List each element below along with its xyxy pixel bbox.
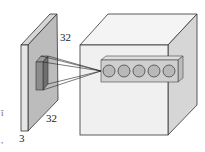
- cnn-diagram: [0, 0, 205, 152]
- neuron-box-side: [178, 56, 183, 82]
- input-front-face: [21, 45, 28, 131]
- neuron-icon: [133, 65, 145, 77]
- neuron-box-top: [101, 56, 183, 60]
- input-width-label: 32: [60, 32, 71, 43]
- neuron-column: [101, 56, 183, 82]
- input-height-label: 32: [46, 113, 57, 124]
- receptive-field: [36, 56, 48, 90]
- receptive-field-front: [36, 62, 43, 90]
- neuron-icon: [163, 65, 175, 77]
- neuron-icon: [103, 65, 115, 77]
- receptive-field-side: [43, 56, 48, 90]
- neuron-icon: [118, 65, 130, 77]
- margin-mark-bottom: ,: [1, 136, 3, 145]
- input-depth-label: 3: [19, 133, 25, 144]
- neuron-icon: [148, 65, 160, 77]
- margin-mark-left: ǐ: [1, 109, 4, 118]
